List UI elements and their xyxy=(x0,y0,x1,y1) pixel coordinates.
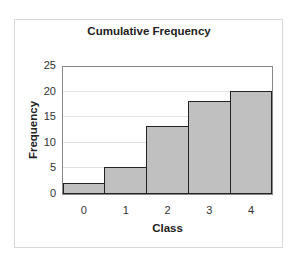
plot-area xyxy=(62,66,273,195)
x-tick-label: 3 xyxy=(188,204,230,216)
y-tick-label: 20 xyxy=(30,85,56,97)
x-axis-label: Class xyxy=(62,222,273,234)
bar-4 xyxy=(230,91,273,194)
chart-title: Cumulative Frequency xyxy=(0,25,298,37)
x-tick-label: 4 xyxy=(230,204,272,216)
y-tick-label: 25 xyxy=(30,59,56,71)
x-tick-label: 0 xyxy=(63,204,105,216)
y-tick-label: 5 xyxy=(30,161,56,173)
y-tick-label: 15 xyxy=(30,110,56,122)
bar-0 xyxy=(63,183,106,194)
x-tick-label: 2 xyxy=(147,204,189,216)
bar-2 xyxy=(146,126,189,194)
y-tick-label: 10 xyxy=(30,136,56,148)
y-tick-label: 0 xyxy=(30,187,56,199)
bar-1 xyxy=(104,167,147,194)
x-tick-label: 1 xyxy=(105,204,147,216)
bar-3 xyxy=(188,101,231,194)
